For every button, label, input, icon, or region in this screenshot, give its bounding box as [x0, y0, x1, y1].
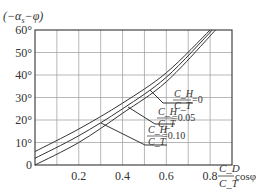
x-axis-ticks: 0.20.40.60.8 [71, 169, 217, 183]
svg-text:=0.05: =0.05 [172, 112, 195, 123]
y-axis-label: (−αs−φ) [3, 9, 43, 25]
x-tick-label: 0.4 [115, 169, 130, 183]
y-tick-label: 40° [15, 68, 32, 82]
y-tick-label: 30° [15, 91, 32, 105]
y-tick-label: 10° [15, 136, 32, 150]
y-tick-label: 0 [26, 158, 32, 172]
x-tick-label: 0.2 [71, 169, 86, 183]
x-axis-label: C_D C_T cosφ [218, 162, 256, 189]
y-tick-label: 20° [15, 113, 32, 127]
x-tick-label: 0.8 [203, 169, 218, 183]
y-tick-label: 50° [15, 46, 32, 60]
svg-text:C_H: C_H [174, 88, 194, 99]
chart: 010°20°30°40°50°60° 0.20.40.60.8 (−αs−φ)… [0, 0, 265, 196]
x-tick-label: 0.6 [159, 169, 174, 183]
y-axis-ticks: 010°20°30°40°50°60° [15, 23, 32, 172]
svg-text:cosφ: cosφ [235, 170, 256, 182]
svg-text:=0.10: =0.10 [162, 130, 185, 141]
svg-text:=0: =0 [192, 94, 203, 105]
label-ch-ct-0: C_H C_T =0 [173, 88, 203, 111]
y-tick-label: 60° [15, 23, 32, 37]
